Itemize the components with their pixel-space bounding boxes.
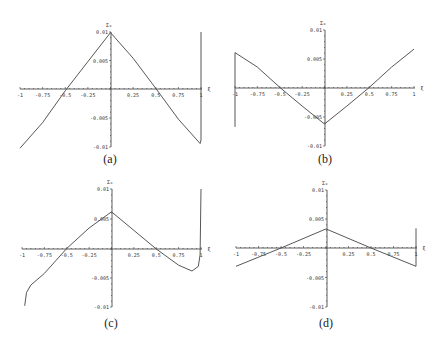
y-tick-label: 0.005: [93, 58, 108, 64]
x-tick-label: -0.5: [274, 91, 286, 97]
x-tick-label: -1: [19, 252, 25, 258]
x-axis-label: ξ: [207, 86, 210, 93]
panel-caption: (b): [318, 152, 332, 166]
x-tick-label: -0.75: [251, 251, 266, 257]
panel-caption: (a): [103, 152, 116, 166]
y-axis-label: Σ₀: [106, 22, 112, 28]
y-tick-label: 0.005: [309, 216, 324, 222]
y-tick-label: -0.01: [307, 143, 322, 149]
y-tick-label: -0.005: [91, 275, 109, 281]
panel-caption: (d): [319, 316, 333, 330]
x-tick-label: -0.75: [250, 91, 265, 97]
x-tick-label: -0.25: [295, 91, 310, 97]
x-tick-label: 0.75: [387, 251, 399, 257]
x-tick-label: -1: [17, 92, 23, 98]
x-tick-label: 0.25: [341, 91, 353, 97]
x-tick-label: -0.5: [275, 251, 287, 257]
x-tick-label: -0.25: [82, 252, 97, 258]
y-tick-label: 0.01: [96, 29, 108, 35]
panel-b: -1-0.75-0.5-0.250.250.50.7510.010.005-0.…: [232, 20, 424, 166]
x-tick-label: 0.25: [127, 92, 139, 98]
x-tick-label: 0.75: [173, 252, 185, 258]
x-tick-label: 1: [412, 91, 415, 97]
x-axis-label: ξ: [207, 246, 210, 253]
panel-caption: (c): [104, 316, 117, 330]
data-curve: [20, 32, 201, 148]
panel-a: -1-0.75-0.5-0.250.250.50.7510.010.005-0.…: [17, 22, 211, 166]
y-tick-label: -0.005: [90, 115, 108, 121]
data-curve: [25, 189, 201, 306]
x-tick-label: -0.25: [80, 92, 95, 98]
x-axis-label: ξ: [422, 245, 425, 252]
x-tick-label: -0.75: [35, 92, 50, 98]
y-tick-label: 0.005: [307, 56, 322, 62]
figure-grid: -1-0.75-0.5-0.250.250.50.7510.010.005-0.…: [0, 0, 441, 350]
x-tick-label: 0.75: [172, 92, 184, 98]
x-axis-label: ξ: [420, 85, 423, 92]
panel-c: -1-0.75-0.5-0.250.250.50.7510.010.005-0.…: [19, 179, 211, 330]
x-tick-label: 0.5: [366, 251, 375, 257]
x-tick-label: -0.75: [37, 252, 52, 258]
y-tick-label: -0.01: [309, 304, 324, 310]
y-axis-label: Σ₀: [107, 179, 113, 185]
x-tick-label: -0.25: [296, 251, 311, 257]
x-tick-label: 0.25: [342, 251, 354, 257]
y-tick-label: -0.01: [93, 144, 108, 150]
x-tick-label: 0.25: [128, 252, 140, 258]
y-axis-label: Σ₀: [322, 180, 328, 186]
x-tick-label: 0.5: [365, 91, 374, 97]
x-tick-label: 0.5: [152, 252, 161, 258]
y-tick-label: -0.01: [94, 304, 109, 310]
y-tick-label: 0.01: [310, 27, 322, 33]
x-tick-label: 0.75: [386, 91, 398, 97]
x-tick-label: -1: [233, 251, 239, 257]
panel-d: -1-0.75-0.5-0.250.250.50.7510.010.005-0.…: [233, 180, 426, 330]
y-axis-label: Σ₀: [320, 20, 326, 26]
y-tick-label: 0.01: [312, 187, 324, 193]
y-tick-label: 0.01: [97, 186, 109, 192]
y-tick-label: -0.005: [306, 275, 324, 281]
